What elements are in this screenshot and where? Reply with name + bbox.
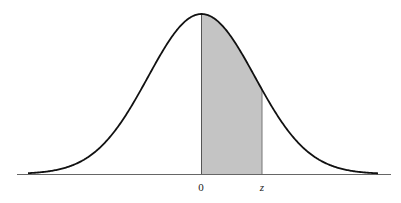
origin-label: 0 <box>198 181 204 193</box>
z-label: z <box>259 181 265 193</box>
normal-curve-diagram: 0 z <box>0 0 401 203</box>
